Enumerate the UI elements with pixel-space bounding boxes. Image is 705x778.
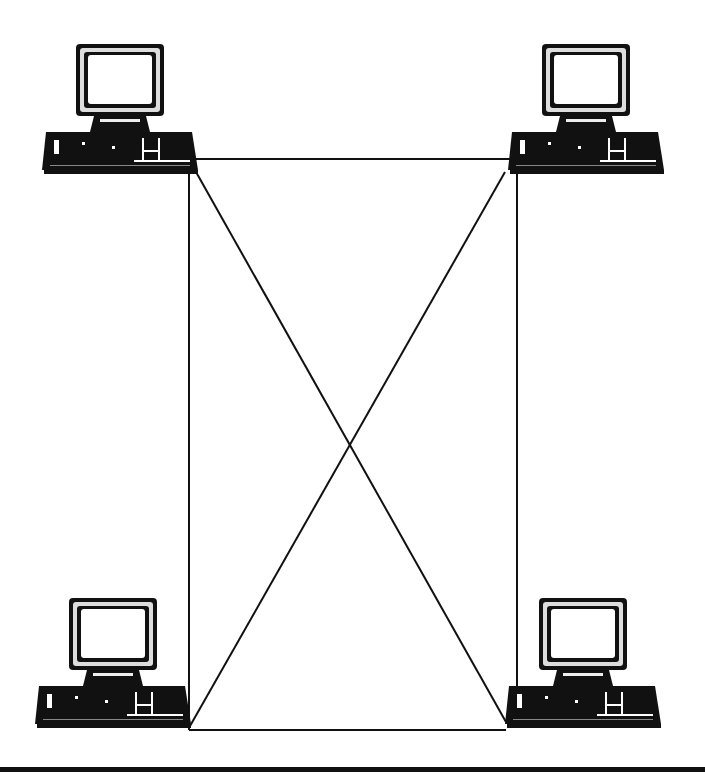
links [189, 159, 517, 730]
node-pc-bottom-right [505, 598, 661, 728]
node-pc-top-left [42, 44, 198, 174]
bottom-rule [0, 767, 705, 772]
link-diag-tr-bl [190, 172, 505, 726]
node-pc-bottom-left [35, 598, 191, 728]
link-diag-tl-br [196, 172, 506, 722]
node-pc-top-right [508, 44, 664, 174]
network-diagram [0, 0, 705, 778]
